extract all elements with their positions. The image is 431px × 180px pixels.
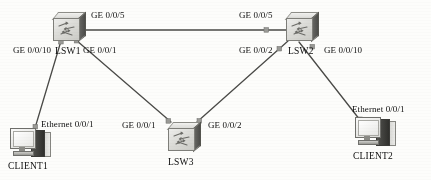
label-client2: CLIENT2 bbox=[353, 151, 393, 161]
port-label-lsw2-ge5: GE 0/0/5 bbox=[239, 10, 273, 20]
pc-screen bbox=[358, 120, 379, 136]
port-label-client1-eth: Ethernet 0/0/1 bbox=[41, 119, 94, 129]
switch-front-face bbox=[168, 128, 195, 151]
switch-front-face bbox=[53, 18, 80, 41]
port-label-lsw2-ge10: GE 0/0/10 bbox=[324, 45, 362, 55]
connector-dot bbox=[264, 28, 269, 33]
device-client2[interactable] bbox=[355, 115, 395, 149]
pc-stand-base bbox=[358, 140, 379, 145]
switch-arrows-icon bbox=[169, 129, 194, 150]
port-label-lsw3-ge1: GE 0/0/1 bbox=[122, 120, 156, 130]
label-lsw1: LSW1 bbox=[55, 46, 81, 56]
topology-canvas: LSW1 GE 0/0/5 GE 0/0/10 GE 0/0/1 LSW2 GE… bbox=[0, 0, 431, 180]
device-lsw2[interactable] bbox=[285, 12, 319, 42]
pc-stand-base bbox=[13, 151, 34, 156]
port-label-lsw1-ge10: GE 0/0/10 bbox=[13, 45, 51, 55]
switch-front-face bbox=[286, 18, 313, 41]
port-label-lsw3-ge2: GE 0/0/2 bbox=[208, 120, 242, 130]
pc-screen bbox=[13, 131, 34, 147]
port-label-lsw1-ge1: GE 0/0/1 bbox=[83, 45, 117, 55]
connector-dot bbox=[277, 46, 282, 51]
device-lsw3[interactable] bbox=[167, 122, 201, 152]
device-client1[interactable] bbox=[10, 126, 50, 160]
label-lsw3: LSW3 bbox=[168, 157, 194, 167]
label-lsw2: LSW2 bbox=[288, 46, 314, 56]
pc-monitor bbox=[355, 117, 381, 138]
port-label-client2-eth: Ethernet 0/0/1 bbox=[352, 104, 405, 114]
port-label-lsw1-ge5: GE 0/0/5 bbox=[91, 10, 125, 20]
pc-monitor bbox=[10, 128, 36, 149]
switch-arrows-icon bbox=[54, 19, 79, 40]
port-label-lsw2-ge2: GE 0/0/2 bbox=[239, 45, 273, 55]
label-client1: CLIENT1 bbox=[8, 161, 48, 171]
device-lsw1[interactable] bbox=[52, 12, 86, 42]
switch-arrows-icon bbox=[287, 19, 312, 40]
